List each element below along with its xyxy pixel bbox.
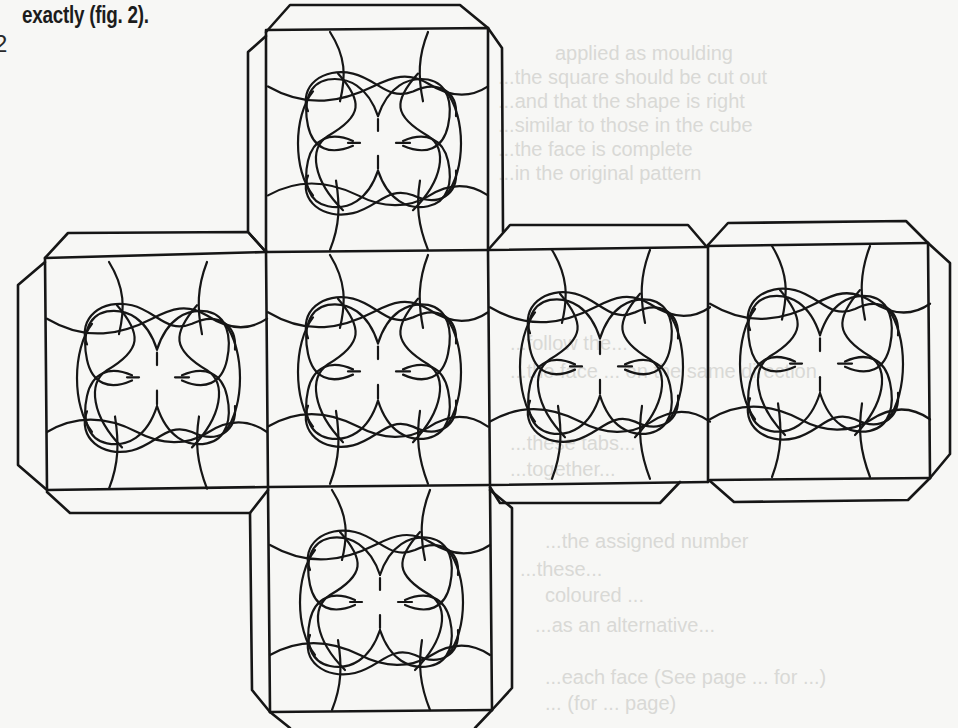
face-right: [488, 225, 710, 503]
face-left: [18, 232, 268, 513]
cube-net-figure: [0, 0, 958, 728]
face-far-right: [708, 221, 950, 502]
face-top: [248, 5, 503, 252]
face-center: [266, 250, 490, 487]
face-bottom: [250, 487, 512, 728]
